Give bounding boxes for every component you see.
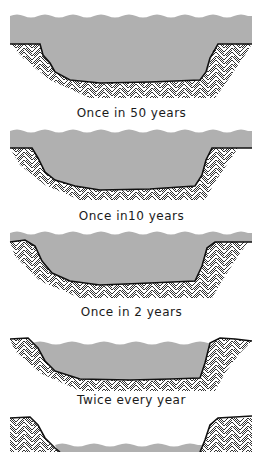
cross-section-panel-5: [0, 410, 263, 452]
cross-section-panel-1: Once in 50 years: [0, 0, 263, 105]
cross-section-panel-2: Once in10 years: [0, 120, 263, 215]
cross-section-panel-4: Twice every year: [0, 333, 263, 408]
channel-diagram-50yr: [0, 0, 263, 105]
water-body: [55, 444, 202, 452]
channel-diagram-10yr: [0, 120, 263, 215]
cross-section-panel-3: Once in 2 years: [0, 226, 263, 321]
streambed-hatch: [200, 418, 252, 452]
frequency-label-10yr: Once in10 years: [0, 209, 263, 223]
channel-diagram-low-flow: [0, 410, 263, 452]
frequency-label-50yr: Once in 50 years: [0, 106, 263, 120]
frequency-label-2yr: Once in 2 years: [0, 305, 263, 319]
frequency-label-twice-yearly: Twice every year: [0, 393, 263, 407]
